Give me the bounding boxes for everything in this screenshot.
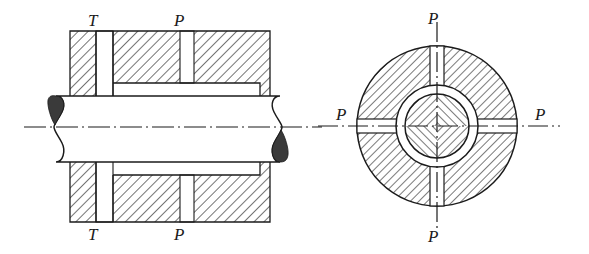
right-bottom-P-label: P [428,228,438,245]
upper-recess [113,83,270,97]
left-bottom-T-label: T [88,226,97,243]
upper-torque-slot [96,31,113,97]
right-right-P-label: P [535,106,545,123]
upper-hatch-right-top [194,31,260,83]
upper-hatch-mid-top [113,31,180,83]
left-bottom-P-label: P [174,226,184,243]
engineering-drawing [0,0,589,254]
upper-housing-block [70,31,270,97]
lower-pressure-slot [180,175,194,222]
upper-hatch-right-wall [260,31,270,97]
lower-hatch-mid [113,175,180,222]
lower-hatch-right-wall [260,161,270,222]
right-left-P-label: P [336,106,346,123]
shaft [48,96,288,162]
lower-hatch-left [70,161,96,222]
upper-pressure-slot [180,31,194,83]
right-top-P-label: P [428,10,438,27]
shaft-body [54,96,282,162]
lower-torque-slot [96,161,113,222]
left-top-P-label: P [174,12,184,29]
upper-hatch-left [70,31,96,97]
lower-hatch-right [194,175,260,222]
left-top-T-label: T [88,12,97,29]
